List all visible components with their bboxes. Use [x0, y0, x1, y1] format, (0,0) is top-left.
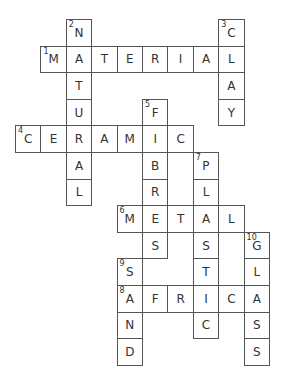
crossword-cell[interactable]: T: [193, 258, 219, 286]
crossword-cell[interactable]: T: [167, 205, 193, 233]
cell-letter: I: [168, 47, 192, 73]
crossword-cell[interactable]: L: [193, 179, 219, 207]
cell-letter: L: [245, 259, 269, 285]
cell-letter: D: [118, 339, 142, 365]
crossword-cell[interactable]: A: [244, 285, 270, 313]
crossword-cell[interactable]: T: [66, 72, 92, 100]
crossword-cell[interactable]: S: [244, 338, 270, 366]
cell-letter: A: [245, 286, 269, 312]
clue-number: 10: [247, 233, 257, 242]
cell-letter: S: [245, 313, 269, 339]
cell-letter: A: [67, 47, 91, 73]
crossword-cell[interactable]: S: [193, 232, 219, 260]
cell-letter: E: [118, 47, 142, 73]
cell-letter: T: [92, 47, 116, 73]
crossword-cell[interactable]: C: [167, 125, 193, 153]
crossword-cell[interactable]: C: [193, 312, 219, 340]
crossword-cell[interactable]: F: [142, 285, 168, 313]
clue-number: 1: [43, 47, 48, 56]
crossword-cell[interactable]: C3: [218, 19, 244, 47]
clue-number: 4: [18, 126, 23, 135]
cell-letter: C: [194, 313, 218, 339]
cell-letter: F: [143, 286, 167, 312]
crossword-cell[interactable]: M1: [40, 46, 66, 74]
cell-letter: T: [194, 259, 218, 285]
crossword-cell[interactable]: L: [218, 46, 244, 74]
cell-letter: N: [118, 313, 142, 339]
crossword-cell[interactable]: I: [167, 46, 193, 74]
cell-letter: L: [194, 180, 218, 206]
clue-number: 9: [120, 259, 125, 268]
clue-number: 7: [196, 153, 201, 162]
crossword-grid: M1ATERIALN2TURALC3AYC4EAMICF5BRESM6TALP7…: [0, 0, 283, 392]
crossword-cell[interactable]: L: [244, 258, 270, 286]
clue-number: 8: [120, 286, 125, 295]
crossword-cell[interactable]: U: [66, 99, 92, 127]
clue-number: 6: [120, 206, 125, 215]
crossword-cell[interactable]: L: [66, 179, 92, 207]
cell-letter: L: [67, 180, 91, 206]
crossword-cell[interactable]: A8: [117, 285, 143, 313]
crossword-cell[interactable]: T: [91, 46, 117, 74]
cell-letter: I: [143, 126, 167, 152]
cell-letter: L: [219, 206, 243, 232]
crossword-cell[interactable]: I: [142, 125, 168, 153]
clue-number: 2: [69, 20, 74, 29]
cell-letter: C: [219, 286, 243, 312]
crossword-cell[interactable]: G10: [244, 232, 270, 260]
crossword-cell[interactable]: P7: [193, 152, 219, 180]
cell-letter: S: [245, 339, 269, 365]
clue-number: 3: [221, 20, 226, 29]
cell-letter: U: [67, 100, 91, 126]
crossword-cell[interactable]: N: [117, 312, 143, 340]
cell-letter: E: [143, 206, 167, 232]
cell-letter: T: [67, 73, 91, 99]
crossword-cell[interactable]: S9: [117, 258, 143, 286]
crossword-cell[interactable]: C4: [15, 125, 41, 153]
crossword-cell[interactable]: S: [142, 232, 168, 260]
crossword-cell[interactable]: A: [193, 46, 219, 74]
crossword-cell[interactable]: E: [40, 125, 66, 153]
cell-letter: R: [143, 47, 167, 73]
crossword-cell[interactable]: Y: [218, 99, 244, 127]
crossword-cell[interactable]: I: [193, 285, 219, 313]
crossword-cell[interactable]: S: [244, 312, 270, 340]
cell-letter: R: [67, 126, 91, 152]
cell-letter: E: [41, 126, 65, 152]
crossword-cell[interactable]: L: [218, 205, 244, 233]
cell-letter: T: [168, 206, 192, 232]
crossword-cell[interactable]: M6: [117, 205, 143, 233]
crossword-cell[interactable]: M: [117, 125, 143, 153]
cell-letter: A: [92, 126, 116, 152]
clue-number: 5: [145, 100, 150, 109]
crossword-cell[interactable]: R: [142, 179, 168, 207]
crossword-cell[interactable]: E: [142, 205, 168, 233]
crossword-cell[interactable]: A: [218, 72, 244, 100]
cell-letter: A: [219, 73, 243, 99]
crossword-cell[interactable]: F5: [142, 99, 168, 127]
cell-letter: C: [168, 126, 192, 152]
crossword-cell[interactable]: A: [66, 152, 92, 180]
crossword-cell[interactable]: D: [117, 338, 143, 366]
cell-letter: A: [194, 47, 218, 73]
crossword-cell[interactable]: R: [142, 46, 168, 74]
crossword-cell[interactable]: A: [66, 46, 92, 74]
cell-letter: I: [194, 286, 218, 312]
crossword-cell[interactable]: A: [91, 125, 117, 153]
cell-letter: S: [194, 233, 218, 259]
cell-letter: Y: [219, 100, 243, 126]
crossword-cell[interactable]: R: [66, 125, 92, 153]
crossword-cell[interactable]: N2: [66, 19, 92, 47]
cell-letter: S: [143, 233, 167, 259]
cell-letter: A: [194, 206, 218, 232]
cell-letter: B: [143, 153, 167, 179]
crossword-cell[interactable]: R: [167, 285, 193, 313]
crossword-cell[interactable]: C: [218, 285, 244, 313]
crossword-cell[interactable]: E: [117, 46, 143, 74]
crossword-cell[interactable]: B: [142, 152, 168, 180]
cell-letter: M: [118, 126, 142, 152]
cell-letter: R: [168, 286, 192, 312]
cell-letter: A: [67, 153, 91, 179]
cell-letter: L: [219, 47, 243, 73]
crossword-cell[interactable]: A: [193, 205, 219, 233]
